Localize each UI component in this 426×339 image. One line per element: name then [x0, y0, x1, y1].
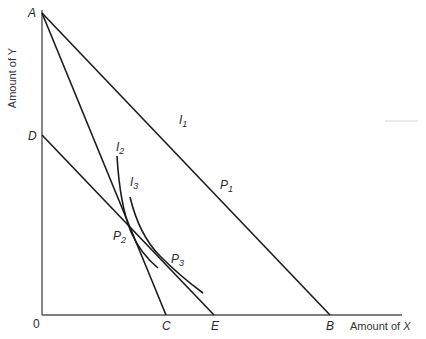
- y-axis-title: Amount of Y: [6, 47, 18, 108]
- label-E: E: [211, 319, 220, 333]
- label-I3: I3: [130, 175, 138, 191]
- label-D: D: [28, 129, 37, 143]
- label-C: C: [162, 319, 171, 333]
- indifference-curve-I3: [130, 197, 203, 293]
- budget-line-AB: [42, 13, 330, 315]
- label-I1: I1: [179, 113, 187, 129]
- label-I2: I2: [116, 140, 124, 156]
- budget-indifference-diagram: A D 0 C E B Amount of X Amount of Y I1 I…: [0, 0, 426, 339]
- label-P3: P3: [171, 252, 184, 268]
- x-axis-title: Amount of X: [350, 320, 411, 332]
- label-A: A: [27, 6, 36, 20]
- label-origin: 0: [33, 317, 40, 331]
- label-P1: P1: [220, 178, 233, 194]
- label-P2: P2: [113, 229, 126, 245]
- label-B: B: [326, 319, 334, 333]
- budget-line-AC: [42, 13, 166, 315]
